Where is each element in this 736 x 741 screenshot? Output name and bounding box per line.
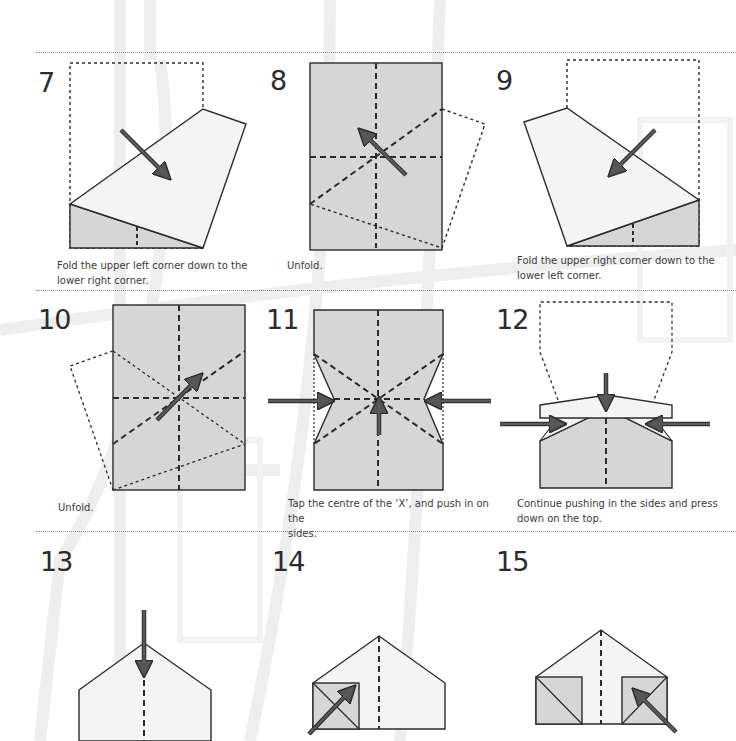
step-8-diagram (310, 63, 485, 250)
step-number-9: 9 (496, 67, 512, 94)
step-13-diagram (79, 610, 211, 741)
divider-top (36, 52, 736, 53)
step-11-diagram (268, 310, 491, 490)
step-number-15: 15 (496, 548, 528, 575)
step-number-7: 7 (38, 69, 54, 96)
step-number-12: 12 (496, 306, 528, 333)
step-14-diagram (309, 636, 445, 734)
step-number-8: 8 (270, 67, 286, 94)
step-9-caption: Fold the upper right corner down to the … (517, 253, 727, 283)
step-12-diagram (500, 302, 710, 488)
divider-row-1 (36, 290, 736, 291)
step-7-caption: Fold the upper left corner down to the l… (57, 258, 257, 288)
step-10-caption: Unfold. (58, 500, 258, 515)
step-9-diagram (524, 60, 699, 246)
step-8-caption: Unfold. (287, 258, 487, 273)
step-number-11: 11 (266, 306, 298, 333)
step-number-10: 10 (38, 306, 70, 333)
step-number-13: 13 (40, 548, 72, 575)
step-number-14: 14 (272, 548, 304, 575)
step-11-caption: Tap the centre of the ‘X’, and push in o… (288, 496, 508, 541)
step-10-diagram (70, 305, 245, 490)
step-15-diagram (536, 630, 676, 732)
step-12-caption: Continue pushing in the sides and press … (517, 496, 727, 526)
step-7-diagram (70, 63, 246, 248)
